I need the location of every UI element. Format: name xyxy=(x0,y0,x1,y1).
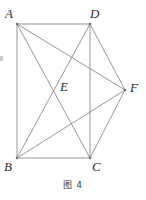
vertex-dot-c xyxy=(89,157,92,160)
segment-BF xyxy=(17,90,125,158)
geometry-figure: ADBCFE 图 4 xyxy=(0,0,146,200)
figure-caption: 图 4 xyxy=(0,178,146,191)
vertex-dot-a xyxy=(16,23,19,26)
vertex-label-d: D xyxy=(90,7,99,20)
vertex-label-f: F xyxy=(130,81,138,94)
segments-group xyxy=(17,24,125,158)
vertices-group xyxy=(16,23,127,160)
figure-canvas xyxy=(0,0,146,200)
vertex-label-a: A xyxy=(5,7,13,20)
segment-AF xyxy=(17,24,125,90)
vertex-dot-f xyxy=(124,89,127,92)
vertex-label-c: C xyxy=(92,160,101,173)
vertex-label-e: E xyxy=(60,80,68,93)
vertex-label-b: B xyxy=(4,160,12,173)
segment-CF xyxy=(90,90,125,158)
vertex-dot-b xyxy=(16,157,19,160)
segment-DF xyxy=(90,24,125,90)
vertex-dot-d xyxy=(89,23,92,26)
scan-artifact-mark xyxy=(0,56,3,61)
